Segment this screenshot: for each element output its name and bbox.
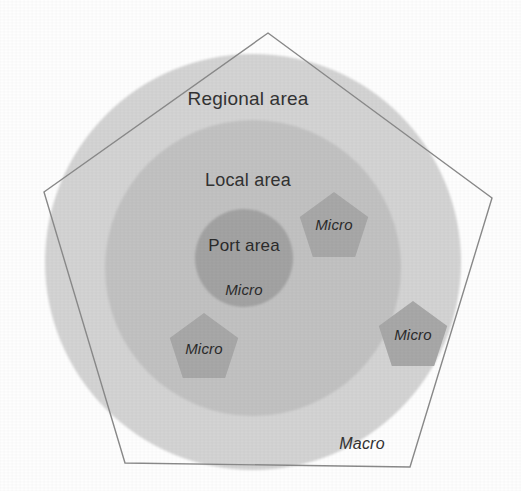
nested-scales-diagram — [0, 0, 521, 491]
ring-port-area — [195, 209, 293, 307]
diagram-canvas: Regional area Local area Port area Micro… — [0, 0, 521, 491]
